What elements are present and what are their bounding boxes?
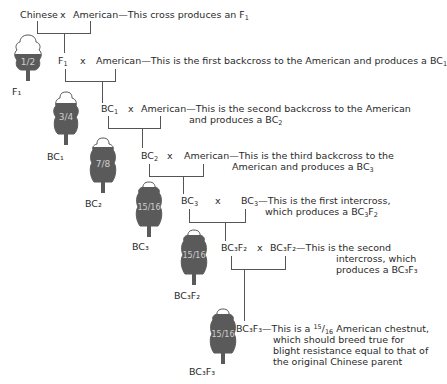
parent-bc2: BC2 bbox=[141, 150, 158, 162]
connector bbox=[65, 69, 66, 81]
cross-symbol: x bbox=[215, 195, 221, 207]
connector bbox=[244, 269, 245, 321]
svg-text:7/8: 7/8 bbox=[96, 159, 111, 169]
connector bbox=[108, 116, 109, 128]
connector bbox=[37, 21, 38, 33]
tree-icon-bc1: 3/4 bbox=[50, 90, 82, 152]
tree-label: BC₁ bbox=[47, 151, 64, 163]
cross-symbol: x bbox=[257, 242, 263, 254]
tree-label: BC₃F₂ bbox=[174, 290, 200, 302]
cross-7-text-line4: the original Chinese parent bbox=[273, 356, 402, 368]
tree-label: BC₃ bbox=[132, 241, 149, 253]
connector bbox=[245, 209, 246, 222]
cross-3-text-line2: and produces a BC2 bbox=[189, 114, 283, 126]
tree-label: BC₂ bbox=[85, 198, 102, 210]
tree-label: F₁ bbox=[12, 86, 21, 98]
tree-label: BC₃F₃ bbox=[189, 366, 215, 378]
cross-1-text: American—This cross produces an F1 bbox=[73, 9, 249, 21]
connector bbox=[108, 128, 161, 129]
connector bbox=[160, 116, 161, 128]
connector bbox=[285, 256, 286, 269]
connector bbox=[65, 81, 116, 82]
connector bbox=[115, 69, 116, 81]
tree-icon-bc3f3: 15/16 bbox=[205, 307, 241, 369]
connector bbox=[183, 176, 184, 194]
parent-bc1: BC1 bbox=[101, 103, 118, 115]
cross-symbol: x bbox=[80, 55, 86, 67]
svg-text:15/16: 15/16 bbox=[211, 330, 234, 339]
connector bbox=[142, 128, 143, 148]
connector bbox=[231, 256, 232, 269]
connector bbox=[102, 81, 103, 103]
parent-bc3-a: BC3 bbox=[181, 195, 198, 207]
tree-icon-bc3: 15/16 bbox=[131, 180, 167, 242]
tree-icon-bc3f2: 15/16 bbox=[176, 228, 212, 290]
svg-text:15/16: 15/16 bbox=[182, 251, 205, 260]
cross-4-text-line2: American and produces a BC3 bbox=[232, 161, 374, 173]
parent-f1: F1 bbox=[58, 55, 68, 67]
tree-icon-f1: 1/2 bbox=[12, 33, 44, 85]
connector bbox=[189, 209, 190, 222]
connector bbox=[203, 164, 204, 176]
connector bbox=[90, 21, 91, 33]
connector bbox=[225, 222, 226, 241]
cross-symbol: x bbox=[128, 103, 134, 115]
parent-bc3f2-a: BC₃F₂ bbox=[221, 242, 247, 254]
cross-symbol: x bbox=[60, 9, 66, 21]
connector bbox=[189, 222, 246, 223]
svg-text:15/16: 15/16 bbox=[137, 203, 160, 212]
connector bbox=[64, 33, 65, 53]
parent-chinese: Chinese bbox=[20, 9, 58, 21]
tree-icon-bc2: 7/8 bbox=[86, 136, 120, 198]
svg-text:1/2: 1/2 bbox=[21, 57, 35, 67]
connector bbox=[231, 269, 286, 270]
cross-2-text: American—This is the first backcross to … bbox=[96, 55, 447, 67]
svg-text:3/4: 3/4 bbox=[59, 112, 74, 122]
cross-6-text-line3: produces a BC₃F₃ bbox=[336, 264, 418, 276]
cross-symbol: x bbox=[167, 150, 173, 162]
connector bbox=[149, 164, 150, 176]
connector bbox=[149, 176, 204, 177]
cross-5-text-line2: which produces a BC3F2 bbox=[265, 206, 378, 218]
